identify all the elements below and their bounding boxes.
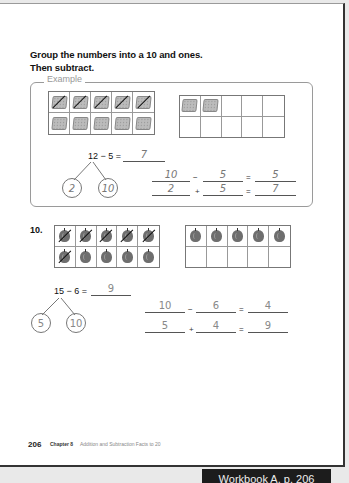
example-row2-b[interactable]: 5 bbox=[203, 183, 243, 196]
apple-icon bbox=[190, 230, 201, 242]
ten-frame-cell bbox=[76, 226, 97, 247]
apple-icon bbox=[143, 230, 154, 242]
problem-row1-b[interactable]: 6 bbox=[196, 300, 236, 313]
ten-frame-cell bbox=[186, 247, 207, 268]
chapter-label: Chapter 8 bbox=[50, 441, 73, 447]
chapter-title: Addition and Subtraction Facts to 20 bbox=[80, 441, 161, 447]
page-number: 206 bbox=[28, 440, 41, 449]
apple-icon bbox=[80, 230, 91, 242]
ten-frame-cell bbox=[248, 226, 269, 247]
ten-frame-cell bbox=[55, 247, 76, 268]
problem-answer: 9 bbox=[91, 283, 131, 294]
ten-frame-cell bbox=[269, 247, 290, 268]
apple-icon bbox=[122, 251, 133, 263]
problem-number: 10. bbox=[30, 225, 43, 235]
minus-sign: − bbox=[188, 305, 193, 314]
problem-ten-frame-left bbox=[54, 225, 160, 268]
example-row1-b[interactable]: 5 bbox=[203, 169, 243, 182]
ten-frame-cell bbox=[117, 226, 138, 247]
ten-frame-cell bbox=[55, 226, 76, 247]
ten-frame-cell bbox=[138, 247, 159, 268]
ten-frame-cell bbox=[228, 226, 249, 247]
example-bond-part-right[interactable]: 10 bbox=[98, 178, 118, 198]
apple-icon bbox=[59, 230, 70, 242]
example-row1-result[interactable]: 5 bbox=[255, 169, 296, 182]
apple-icon bbox=[211, 230, 222, 242]
apple-icon bbox=[59, 251, 70, 263]
ten-frame-cell bbox=[248, 247, 269, 268]
equals-sign: = bbox=[246, 173, 251, 182]
apple-icon bbox=[101, 230, 112, 242]
plus-sign: + bbox=[195, 187, 200, 196]
ten-frame-cell bbox=[186, 226, 207, 247]
example-row2-a[interactable]: 2 bbox=[152, 183, 190, 196]
problem-equation: 15 − 6 = bbox=[54, 286, 87, 296]
ten-frame-cell bbox=[97, 226, 118, 247]
workbook-reference-banner: Workbook A, p. 206 bbox=[202, 469, 331, 483]
problem-row2-a[interactable]: 5 bbox=[145, 320, 185, 333]
equals-sign: = bbox=[239, 325, 244, 334]
ten-frame-cell bbox=[138, 226, 159, 247]
apple-icon bbox=[253, 230, 264, 242]
example-row2-result[interactable]: 7 bbox=[255, 183, 296, 196]
plus-sign: + bbox=[189, 325, 194, 334]
problem-row2-b[interactable]: 4 bbox=[196, 320, 236, 333]
equals-sign: = bbox=[246, 187, 251, 196]
apple-icon bbox=[143, 251, 154, 263]
apple-icon bbox=[232, 230, 243, 242]
ten-frame-cell bbox=[117, 247, 138, 268]
apple-icon bbox=[122, 230, 133, 242]
ten-frame-cell bbox=[207, 247, 228, 268]
problem-row1-a[interactable]: 10 bbox=[145, 300, 185, 313]
ten-frame-cell bbox=[228, 247, 249, 268]
equals-sign: = bbox=[239, 305, 244, 314]
problem-row2-result[interactable]: 9 bbox=[248, 320, 288, 333]
ten-frame-cell bbox=[97, 247, 118, 268]
example-bond-part-left[interactable]: 2 bbox=[62, 178, 82, 198]
ten-frame-cell bbox=[207, 226, 228, 247]
problem-ten-frame-right bbox=[185, 225, 291, 268]
apple-icon bbox=[80, 251, 91, 263]
problem-row1-result[interactable]: 4 bbox=[248, 300, 288, 313]
apple-icon bbox=[274, 230, 285, 242]
problem-answer-blank[interactable]: 9 bbox=[91, 283, 131, 296]
minus-sign: − bbox=[193, 173, 198, 182]
problem-bond-part-left[interactable]: 5 bbox=[31, 313, 51, 333]
ten-frame-cell bbox=[269, 226, 290, 247]
apple-icon bbox=[101, 251, 112, 263]
problem-bond-part-right[interactable]: 10 bbox=[66, 313, 86, 333]
example-row1-a[interactable]: 10 bbox=[152, 169, 190, 182]
ten-frame-cell bbox=[76, 247, 97, 268]
